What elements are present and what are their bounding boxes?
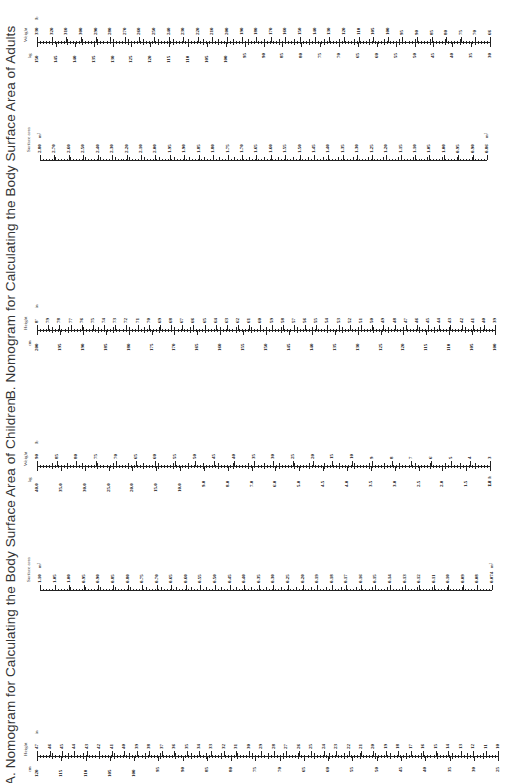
scale-label-bottom: 95 xyxy=(242,53,247,58)
minor-tick xyxy=(475,42,476,45)
minor-tick xyxy=(102,756,103,758)
minor-tick xyxy=(411,589,412,591)
minor-tick xyxy=(372,756,373,758)
minor-tick xyxy=(121,159,122,161)
minor-tick xyxy=(202,330,203,332)
minor-tick xyxy=(142,756,143,758)
minor-tick xyxy=(67,42,68,45)
major-tick xyxy=(256,37,257,42)
major-tick xyxy=(272,325,273,330)
minor-tick xyxy=(40,466,41,468)
minor-tick xyxy=(130,587,131,590)
major-tick xyxy=(477,585,478,590)
major-tick xyxy=(327,325,328,330)
minor-tick xyxy=(258,159,259,161)
minor-tick xyxy=(242,466,243,468)
minor-tick xyxy=(387,587,388,590)
minor-tick xyxy=(132,330,133,332)
scale-label-top: 51 xyxy=(358,318,363,323)
major-tick xyxy=(442,466,443,471)
unit-top: in xyxy=(34,304,39,308)
minor-tick xyxy=(409,466,410,468)
minor-tick xyxy=(267,42,268,44)
axis-title: Height xyxy=(23,316,28,330)
major-tick xyxy=(199,751,200,756)
minor-tick xyxy=(384,466,385,469)
minor-tick xyxy=(483,330,484,332)
scale-label-top: 35 xyxy=(184,744,189,749)
minor-tick xyxy=(100,466,101,468)
minor-tick xyxy=(381,466,382,468)
minor-tick xyxy=(355,330,356,332)
minor-tick xyxy=(64,466,65,468)
scale-label-top: 320 xyxy=(49,28,54,36)
major-tick xyxy=(252,466,253,471)
minor-tick xyxy=(212,42,213,44)
scale-label-bottom: 110 xyxy=(446,344,451,351)
minor-tick xyxy=(336,42,337,44)
major-tick xyxy=(315,37,316,42)
minor-tick xyxy=(292,756,293,758)
minor-tick xyxy=(231,159,232,161)
major-tick xyxy=(324,751,325,756)
major-tick xyxy=(343,155,344,160)
scale-label-bottom: 145 xyxy=(53,56,58,64)
minor-tick xyxy=(400,330,401,332)
minor-tick xyxy=(427,42,428,44)
major-tick xyxy=(259,585,260,590)
minor-tick xyxy=(356,587,357,590)
minor-tick xyxy=(320,756,321,758)
scale-label-bottom: 185 xyxy=(103,344,108,352)
minor-tick xyxy=(246,159,247,161)
minor-tick xyxy=(458,756,459,758)
major-tick xyxy=(52,37,53,42)
minor-tick xyxy=(136,589,137,591)
minor-tick xyxy=(110,466,111,468)
scale-label-top: 200 xyxy=(224,28,229,36)
major-tick xyxy=(228,155,229,160)
minor-tick xyxy=(110,42,111,44)
major-tick xyxy=(280,756,281,761)
minor-tick xyxy=(363,756,364,758)
minor-tick xyxy=(156,330,157,332)
minor-tick xyxy=(369,756,370,758)
minor-tick xyxy=(254,42,255,44)
minor-tick xyxy=(71,330,72,332)
minor-tick xyxy=(186,159,187,161)
minor-tick xyxy=(320,589,321,591)
major-tick xyxy=(81,37,82,42)
major-tick xyxy=(314,155,315,160)
scale-label-bottom: 140 xyxy=(309,344,314,352)
scale-label: 0.90 xyxy=(470,144,475,153)
minor-tick xyxy=(352,330,353,332)
minor-tick xyxy=(88,42,89,44)
major-tick xyxy=(323,466,324,471)
scale-label-bottom: 35 xyxy=(468,53,473,58)
major-tick xyxy=(54,155,55,160)
scale-label-bottom: 55 xyxy=(349,767,354,772)
scale-label-bottom: 30 xyxy=(487,53,492,58)
scale-label-bottom: 60 xyxy=(374,53,379,58)
scale-label-top: 100 xyxy=(385,28,390,36)
minor-tick xyxy=(465,589,466,591)
minor-tick xyxy=(199,330,200,332)
minor-tick xyxy=(143,42,144,45)
minor-tick xyxy=(77,330,78,332)
minor-tick xyxy=(116,42,117,44)
scale-label-bottom: 125 xyxy=(378,344,383,352)
major-tick xyxy=(266,330,267,335)
minor-tick xyxy=(466,159,467,161)
minor-tick xyxy=(116,330,117,332)
minor-tick xyxy=(317,159,318,161)
minor-tick xyxy=(351,756,352,758)
minor-tick xyxy=(481,42,482,44)
minor-tick xyxy=(427,756,428,758)
minor-tick xyxy=(362,159,363,161)
scale-label: 0.20 xyxy=(300,574,305,583)
major-tick xyxy=(157,585,158,590)
scale-label-top: 29 xyxy=(258,744,263,749)
minor-tick xyxy=(188,589,189,591)
scale-label-top: 56 xyxy=(302,318,307,323)
minor-tick xyxy=(178,330,179,332)
scale-label: 2.80 xyxy=(37,144,42,153)
